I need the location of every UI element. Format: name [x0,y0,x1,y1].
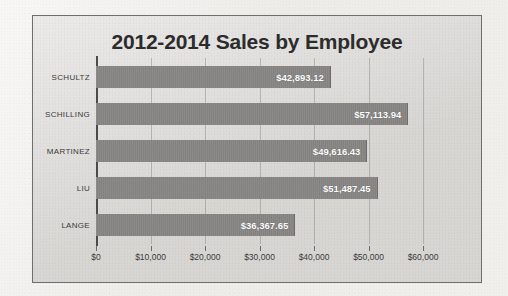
x-tick-label: $10,000 [135,252,166,262]
bar-row: $51,487.45 [96,177,423,199]
x-tick-label: $60,000 [408,252,439,262]
x-tick-label: $0 [91,252,100,262]
x-tick-label: $20,000 [190,252,221,262]
bar: $57,113.94 [96,103,408,125]
bar: $49,616.43 [96,140,367,162]
x-tick-label: $50,000 [353,252,384,262]
x-tick-mark [314,246,315,251]
category-label: SCHULTZ [32,72,90,81]
x-tick-mark [151,246,152,251]
category-axis: SCHULTZSCHILLINGMARTINEZLIULANGE [32,58,90,244]
plot-area: SCHULTZSCHILLINGMARTINEZLIULANGE $42,893… [96,58,423,244]
category-label: LIU [32,184,90,193]
x-tick-label: $30,000 [244,252,275,262]
bar: $51,487.45 [96,177,378,199]
bar-row: $57,113.94 [96,103,423,125]
bar-row: $42,893.12 [96,66,423,88]
x-tick-mark [96,246,97,251]
x-tick-label: $40,000 [299,252,330,262]
category-label: LANGE [32,221,90,230]
x-tick-mark [423,246,424,251]
x-tick-mark [205,246,206,251]
bar-value-label: $42,893.12 [276,71,324,82]
chart-frame: 2012-2014 Sales by Employee SCHULTZSCHIL… [32,15,482,283]
x-tick-mark [369,246,370,251]
bar: $42,893.12 [96,66,331,88]
bar-row: $49,616.43 [96,140,423,162]
category-label: MARTINEZ [32,147,90,156]
bar-value-label: $36,367.65 [241,220,289,231]
bar-value-label: $51,487.45 [323,183,371,194]
bar-value-label: $57,113.94 [354,108,401,119]
bar-value-label: $49,616.43 [313,146,361,157]
bar: $36,367.65 [96,214,295,236]
category-label: SCHILLING [32,109,90,118]
scanned-page: 2012-2014 Sales by Employee SCHULTZSCHIL… [0,0,508,296]
bar-row: $36,367.65 [96,214,423,236]
x-tick-mark [260,246,261,251]
gridline [423,58,424,244]
chart-title: 2012-2014 Sales by Employee [33,30,481,54]
